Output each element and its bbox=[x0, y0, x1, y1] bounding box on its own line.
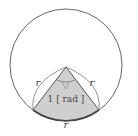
radian-diagram: r r 1 [ rad ] r bbox=[0, 0, 138, 136]
right-radius-label: r bbox=[90, 77, 96, 88]
left-radius-label: r bbox=[36, 77, 42, 88]
angle-label: 1 [ rad ] bbox=[48, 94, 85, 104]
